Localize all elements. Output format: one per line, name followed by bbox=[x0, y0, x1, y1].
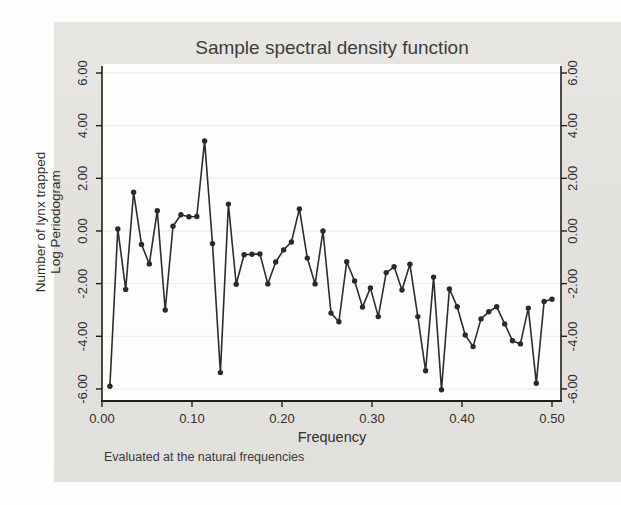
data-point bbox=[376, 314, 381, 319]
data-point bbox=[210, 241, 215, 246]
y-tick-label-right: 4.00 bbox=[565, 113, 580, 138]
data-point bbox=[407, 262, 412, 267]
data-point bbox=[360, 304, 365, 309]
plot-area bbox=[102, 64, 561, 401]
data-point bbox=[249, 252, 254, 257]
data-point bbox=[273, 259, 278, 264]
photo-page: Sample spectral density function 6.006.0… bbox=[0, 0, 621, 505]
data-point bbox=[139, 242, 144, 247]
x-tick-label: 0.40 bbox=[449, 411, 474, 426]
data-point bbox=[494, 304, 499, 309]
y-tick-label-right: 2.00 bbox=[565, 166, 580, 191]
data-point bbox=[226, 201, 231, 206]
data-point bbox=[115, 226, 120, 231]
y-tick-label-left: -6.00 bbox=[75, 374, 90, 404]
data-point bbox=[297, 206, 302, 211]
y-tick-label-left: 2.00 bbox=[75, 166, 90, 191]
data-point bbox=[399, 287, 404, 292]
data-point bbox=[257, 251, 262, 256]
data-point bbox=[344, 259, 349, 264]
data-point bbox=[391, 264, 396, 269]
data-point bbox=[131, 190, 136, 195]
x-tick-label: 0.30 bbox=[359, 411, 384, 426]
data-point bbox=[526, 305, 531, 310]
x-tick-label: 0.00 bbox=[89, 411, 114, 426]
x-tick-label: 0.10 bbox=[179, 411, 204, 426]
data-point bbox=[218, 370, 223, 375]
data-point bbox=[170, 224, 175, 229]
data-point bbox=[155, 208, 160, 213]
data-point bbox=[455, 304, 460, 309]
data-point bbox=[312, 281, 317, 286]
data-point bbox=[328, 310, 333, 315]
data-point bbox=[510, 338, 515, 343]
x-tick-label: 0.50 bbox=[539, 411, 564, 426]
data-point bbox=[265, 281, 270, 286]
data-point bbox=[486, 309, 491, 314]
y-tick-label-right: -6.00 bbox=[565, 374, 580, 404]
data-point bbox=[502, 321, 507, 326]
y-tick-label-right: -4.00 bbox=[565, 321, 580, 351]
data-point bbox=[147, 261, 152, 266]
data-point bbox=[470, 344, 475, 349]
data-point bbox=[439, 387, 444, 392]
data-point bbox=[234, 282, 239, 287]
y-tick-label-right: 6.00 bbox=[565, 60, 580, 85]
data-point bbox=[305, 255, 310, 260]
data-point bbox=[541, 299, 546, 304]
y-tick-label-right: -2.00 bbox=[565, 269, 580, 299]
data-point bbox=[384, 270, 389, 275]
y-tick-label-left: 4.00 bbox=[75, 113, 90, 138]
data-point bbox=[186, 214, 191, 219]
data-point bbox=[463, 332, 468, 337]
data-point bbox=[368, 285, 373, 290]
y-tick-label-left: 0.00 bbox=[75, 218, 90, 243]
data-point bbox=[534, 381, 539, 386]
x-axis-label: Frequency bbox=[298, 429, 367, 445]
x-tick-label: 0.20 bbox=[269, 411, 294, 426]
data-point bbox=[163, 307, 168, 312]
y-axis-label-line1: Number of lynx trapped bbox=[33, 152, 48, 292]
data-point bbox=[123, 287, 128, 292]
y-tick-label-right: 0.00 bbox=[565, 218, 580, 243]
y-tick-label-left: -4.00 bbox=[75, 321, 90, 351]
data-point bbox=[415, 314, 420, 319]
chart-note: Evaluated at the natural frequencies bbox=[104, 450, 304, 464]
data-point bbox=[478, 316, 483, 321]
y-axis-label-line2: Log Periodogram bbox=[48, 170, 63, 274]
data-point bbox=[241, 252, 246, 257]
data-point bbox=[336, 319, 341, 324]
data-point bbox=[202, 138, 207, 143]
periodogram-chart: Sample spectral density function 6.006.0… bbox=[0, 0, 621, 505]
data-point bbox=[289, 239, 294, 244]
data-point bbox=[352, 278, 357, 283]
y-tick-label-left: 6.00 bbox=[75, 60, 90, 85]
data-point bbox=[178, 212, 183, 217]
chart-title: Sample spectral density function bbox=[195, 37, 469, 58]
data-point bbox=[431, 274, 436, 279]
y-tick-label-left: -2.00 bbox=[75, 269, 90, 299]
data-point bbox=[281, 247, 286, 252]
data-point bbox=[107, 384, 112, 389]
data-point bbox=[194, 214, 199, 219]
data-point bbox=[423, 368, 428, 373]
data-point bbox=[447, 286, 452, 291]
data-point bbox=[320, 228, 325, 233]
data-point bbox=[518, 341, 523, 346]
data-point bbox=[549, 297, 554, 302]
